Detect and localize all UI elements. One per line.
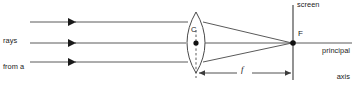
label-rays-line-1: rays (3, 37, 47, 46)
label-rays-line-2: from a (3, 63, 47, 72)
ray-diagram-figure: rays from a distant object C screen F pr… (0, 0, 352, 88)
label-rays-from-distant-object: rays from a distant object (3, 20, 47, 88)
label-principal-axis-line-1: principal (311, 47, 350, 56)
optics-diagram-canvas (0, 0, 352, 88)
label-screen: screen (297, 1, 319, 10)
label-lens-centre: C (191, 26, 197, 35)
refracted-ray-top (203, 22, 292, 43)
lens-centre-point (193, 40, 198, 45)
incoming-rays-group (30, 22, 188, 62)
label-focal-point: F (298, 30, 303, 39)
refracted-rays-group (203, 22, 292, 62)
label-principal-axis: principal axis (311, 30, 350, 88)
refracted-ray-bottom (203, 43, 292, 62)
label-focal-length: f (241, 65, 244, 74)
focal-point-marker (290, 40, 296, 46)
label-principal-axis-line-2: axis (311, 73, 350, 82)
